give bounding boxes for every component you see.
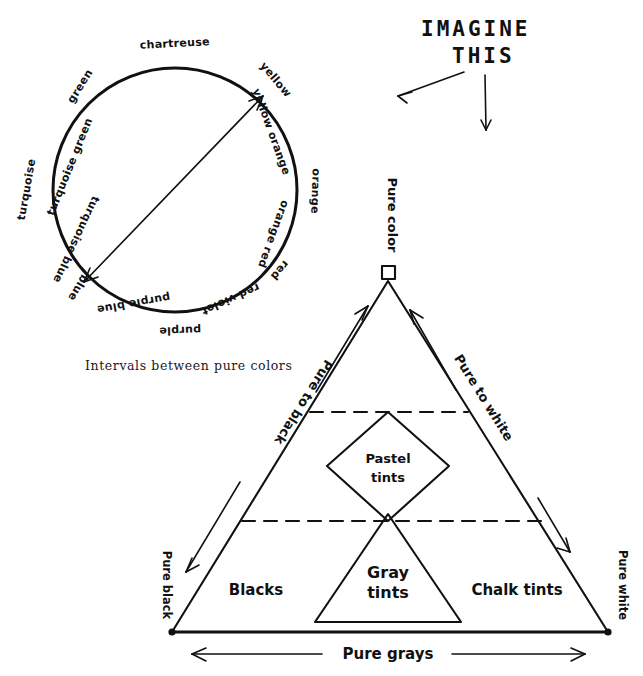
zone-label-gray-tints-line2: tints bbox=[367, 583, 409, 602]
apex-label-pure-color: Pure color bbox=[385, 178, 400, 254]
wheel-label-red: red bbox=[268, 258, 292, 283]
pure-black-vertex-dot bbox=[168, 628, 175, 635]
wheel-label-blue: blue bbox=[65, 272, 90, 303]
color-triangle-group: Pure color Pure to black Pure to white bbox=[160, 178, 630, 663]
color-wheel-labels: chartreuse green turquoise green turquoi… bbox=[15, 35, 323, 338]
headline-group: IMAGINE THIS bbox=[398, 17, 531, 130]
corner-label-pure-black: Pure black bbox=[160, 551, 174, 620]
headline-line-2: THIS bbox=[452, 44, 515, 68]
wheel-label-turquoise: turquoise bbox=[15, 158, 39, 222]
wheel-label-chartreuse: chartreuse bbox=[139, 35, 210, 52]
diagram-page: IMAGINE THIS bbox=[0, 0, 643, 676]
color-wheel-diameter-arrow-icon bbox=[84, 96, 263, 282]
base-label-pure-grays: Pure grays bbox=[343, 645, 434, 663]
color-wheel-group: chartreuse green turquoise green turquoi… bbox=[15, 35, 323, 373]
pure-color-marker bbox=[382, 266, 395, 279]
corner-label-pure-white: Pure white bbox=[616, 550, 630, 620]
pure-white-vertex-dot bbox=[604, 628, 611, 635]
toward-pure-color-right-arrow-icon bbox=[410, 310, 456, 390]
wheel-label-yellow-orange: yellow orange bbox=[250, 87, 293, 177]
zone-label-chalk-tints: Chalk tints bbox=[471, 581, 562, 599]
diagram-canvas: IMAGINE THIS bbox=[0, 0, 643, 676]
wheel-label-red-violet: red violet bbox=[199, 281, 261, 318]
color-wheel-caption: Intervals between pure colors bbox=[85, 358, 292, 373]
wheel-label-purple: purple bbox=[159, 323, 201, 337]
wheel-label-orange: orange bbox=[308, 168, 323, 214]
pastel-tints-diamond bbox=[327, 412, 449, 521]
zone-label-gray-tints-line1: Gray bbox=[367, 563, 409, 582]
zone-label-pastel-tints-line2: tints bbox=[371, 470, 405, 485]
zone-label-blacks: Blacks bbox=[229, 581, 284, 599]
pure-to-black-arrow-icon bbox=[186, 482, 240, 572]
toward-pure-color-left-arrow-icon bbox=[316, 306, 368, 392]
arrow-to-color-triangle-icon bbox=[481, 75, 491, 130]
zone-label-pastel-tints-line1: Pastel bbox=[365, 451, 410, 466]
headline-line-1: IMAGINE bbox=[421, 17, 531, 41]
wheel-label-orange-red: orange red bbox=[255, 199, 292, 270]
arrow-to-color-wheel-icon bbox=[398, 72, 464, 103]
